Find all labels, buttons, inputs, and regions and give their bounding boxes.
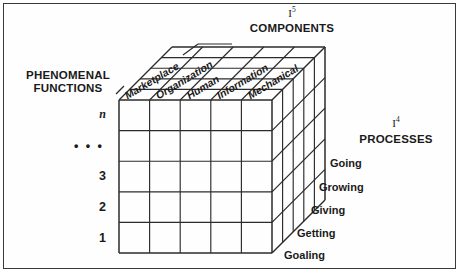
components-leader-tick: [183, 44, 232, 55]
front-face-grid: [119, 100, 272, 253]
function-label-n: n: [66, 108, 106, 121]
processes-index: I4: [366, 116, 426, 129]
function-label-2: 2: [66, 200, 106, 214]
processes-title: PROCESSES: [331, 133, 461, 146]
process-label-going: Going: [330, 157, 362, 169]
process-label-goaling: Goaling: [284, 249, 325, 261]
functions-title-line2: FUNCTIONS: [18, 82, 118, 95]
function-label-3: 3: [66, 169, 106, 183]
function-label-ellipsis: • • •: [64, 139, 104, 153]
components-title: COMPONENTS: [222, 22, 362, 35]
components-index: I5: [262, 6, 322, 19]
processes-index-exponent: 4: [396, 115, 400, 124]
function-label-1: 1: [66, 231, 106, 245]
process-label-getting: Getting: [297, 227, 336, 239]
components-index-exponent: 5: [292, 5, 296, 14]
process-label-growing: Growing: [319, 181, 364, 193]
functions-title-line1: PHENOMENAL: [18, 69, 118, 82]
diagram-root: I5 COMPONENTS I4 PROCESSES PHENOMENAL FU…: [0, 0, 461, 274]
process-label-giving: Giving: [311, 204, 345, 216]
